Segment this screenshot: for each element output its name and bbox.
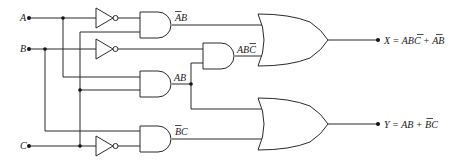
logic-circuit-diagram: A B C — [0, 0, 459, 165]
output-x-equation: X = ABC + AB — [383, 35, 444, 47]
not-gate-c — [96, 136, 118, 156]
wire-ab-down — [191, 84, 262, 109]
junction-ab — [189, 82, 193, 86]
and-gate-abar-b — [140, 12, 171, 38]
input-a-label: A — [19, 12, 27, 23]
label-abar-b-b: B — [181, 12, 187, 23]
label-bbarc-c: C — [181, 126, 188, 137]
junction-b — [43, 47, 47, 51]
input-c-label: C — [20, 140, 27, 151]
junction-c — [78, 144, 82, 148]
and-gate-bbar-c — [140, 126, 171, 152]
label-ab: AB — [173, 72, 186, 83]
not-gate-a — [96, 8, 118, 28]
eq-x-lhs: X = AB — [383, 35, 414, 46]
and-gate-abcbar — [203, 43, 234, 69]
junction-bus — [78, 88, 82, 92]
output-y-terminal — [376, 122, 380, 126]
wire-ab-up — [191, 63, 203, 84]
svg-text:ABC: ABC — [236, 44, 256, 55]
eq-y-lhs: Y = AB + — [384, 119, 425, 130]
not-gate-b — [96, 39, 118, 59]
label-ab-cbar: ABC — [236, 44, 256, 56]
svg-text:X = ABC + AB: X = ABC + AB — [383, 35, 444, 46]
svg-text:BC: BC — [175, 126, 188, 137]
output-x-terminal — [376, 38, 380, 42]
output-y-equation: Y = AB + BC — [384, 119, 438, 131]
and-gate-ab — [140, 71, 171, 97]
label-abar-b: AB — [174, 12, 187, 24]
or-gate-y — [258, 98, 328, 150]
or-gate-x — [258, 14, 328, 66]
label-bbar-c: BC — [175, 126, 188, 138]
input-b-label: B — [20, 43, 26, 54]
eq-x-b: B — [438, 35, 444, 46]
label-abcbar-c: C — [249, 44, 256, 55]
svg-text:AB: AB — [174, 12, 187, 23]
label-abcbar-ab: AB — [236, 44, 249, 55]
eq-y-c: C — [431, 119, 438, 130]
svg-text:Y = AB + BC: Y = AB + BC — [384, 119, 438, 130]
eq-x-plus: + — [421, 35, 433, 46]
junction-a — [61, 16, 65, 20]
junctions — [43, 16, 380, 148]
